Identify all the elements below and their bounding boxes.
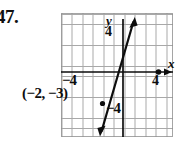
point-marker-neg2-neg3 [100,101,105,106]
y-tick-label-positive-4: 4 [105,25,112,39]
problem-number: 47. [0,6,18,28]
point-coordinate-label: (−2, −3) [22,86,68,101]
x-tick-label-positive-4: 4 [152,74,159,88]
y-tick-label-negative-4: −4 [106,101,120,116]
figure-root: 47. [0,0,178,147]
plotted-line [97,17,137,137]
x-axis-label: x [168,57,175,70]
